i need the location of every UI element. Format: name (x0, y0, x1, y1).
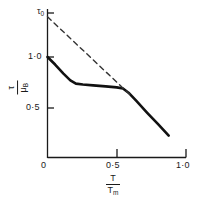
data-series-layer (48, 17, 169, 136)
x-tick-label-1-0: 1·0 (176, 160, 190, 170)
series-athermal-plateau-curve (48, 57, 169, 136)
x-tick-label-0: 0 (41, 160, 46, 170)
x-tick-label-0-5: 0·5 (106, 160, 120, 170)
series-thermal-reference-line (48, 17, 131, 95)
y-axis-title: τ μB (2, 66, 36, 110)
x-axis-fraction: T Tm (106, 174, 121, 196)
x-axis-numerator: T (106, 174, 121, 183)
y-axis-denominator: μB (20, 81, 29, 95)
tau-zero-subscript: 0 (41, 10, 45, 17)
y-tick-label-1-0: 1·0 (28, 51, 42, 61)
y-axis-denominator-symbol: μ (19, 88, 29, 93)
x-axis-denominator: Tm (106, 186, 121, 195)
figure-container: 1·0 0·5 τ0 0 0·5 1·0 τ μB T Tm (0, 0, 205, 206)
y-axis-title-rotated: τ μB (7, 81, 30, 95)
y-axis-numerator: τ (7, 81, 16, 95)
x-axis-denominator-subscript: m (113, 189, 118, 196)
y-axis-denominator-subscript: B (23, 83, 30, 87)
tau-zero-label: τ0 (37, 6, 44, 16)
y-axis-fraction: τ μB (7, 81, 29, 95)
x-axis-title: T Tm (96, 174, 130, 197)
